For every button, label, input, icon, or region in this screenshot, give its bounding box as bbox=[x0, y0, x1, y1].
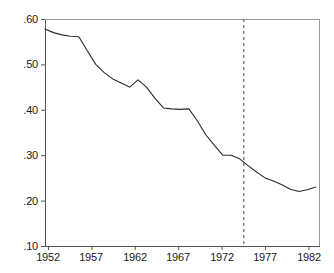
y-axis-ticks bbox=[41, 20, 45, 247]
axis-frame bbox=[45, 19, 320, 247]
data-series-line bbox=[45, 29, 316, 192]
plot-area bbox=[0, 0, 334, 273]
caption-strip bbox=[0, 266, 334, 273]
chart-figure: .60 .50 .40 .30 .20 .10 1952 1957 1962 1… bbox=[0, 0, 334, 273]
